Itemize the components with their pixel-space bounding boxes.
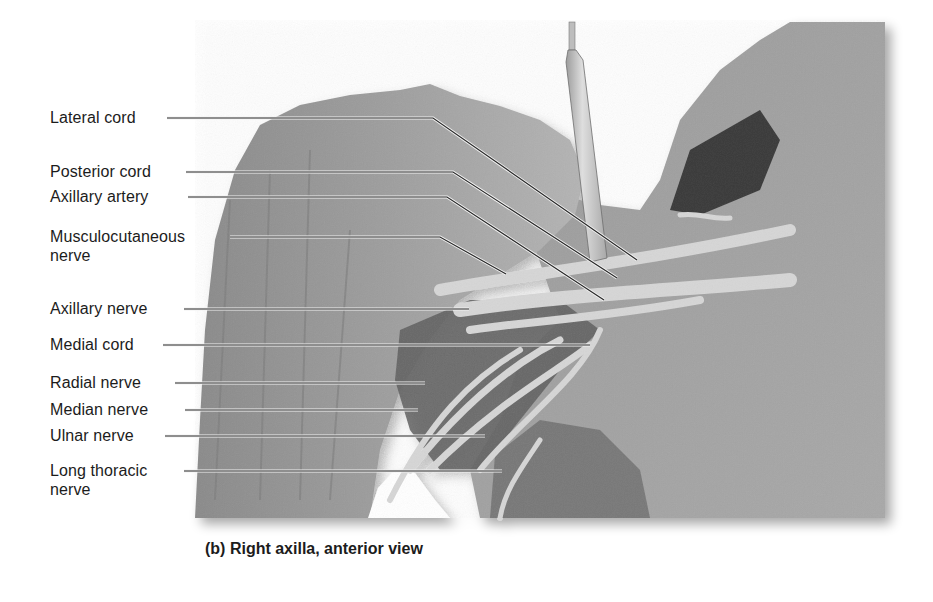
figure-caption: (b) Right axilla, anterior view [205, 540, 423, 558]
label-text: nerve [50, 246, 185, 265]
label-posterior-cord: Posterior cord [50, 162, 151, 181]
label-text: Posterior cord [50, 162, 151, 181]
label-axillary-artery: Axillary artery [50, 187, 148, 206]
label-musculocutaneous-nerve: Musculocutaneousnerve [50, 227, 185, 265]
label-axillary-nerve: Axillary nerve [50, 299, 147, 318]
label-long-thoracic-nerve: Long thoracicnerve [50, 461, 147, 499]
label-radial-nerve: Radial nerve [50, 373, 141, 392]
label-text: Lateral cord [50, 108, 136, 127]
label-ulnar-nerve: Ulnar nerve [50, 426, 134, 445]
label-lateral-cord: Lateral cord [50, 108, 136, 127]
label-median-nerve: Median nerve [50, 400, 148, 419]
label-text: Axillary nerve [50, 299, 147, 318]
label-text: Medial cord [50, 335, 134, 354]
anatomy-figure: Lateral cordPosterior cordAxillary arter… [0, 0, 933, 602]
label-text: Musculocutaneous [50, 227, 185, 246]
label-text: Axillary artery [50, 187, 148, 206]
label-text: Radial nerve [50, 373, 141, 392]
label-text: Long thoracic [50, 461, 147, 480]
label-text: Ulnar nerve [50, 426, 134, 445]
label-text: Median nerve [50, 400, 148, 419]
photo-group [195, 20, 885, 518]
label-medial-cord: Medial cord [50, 335, 134, 354]
label-text: nerve [50, 480, 147, 499]
